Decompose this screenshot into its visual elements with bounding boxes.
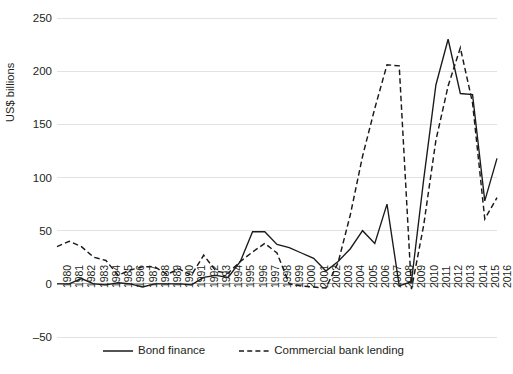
legend-item[interactable]: Commercial bank lending [239,345,404,357]
x-tick-label: 2016 [501,246,513,288]
y-tick-label: 100 [8,172,52,184]
legend-label: Bond finance [138,345,205,357]
y-tick-label: 150 [8,118,52,130]
plot-area [57,18,497,337]
legend-item[interactable]: Bond finance [103,345,205,357]
y-tick-label: 250 [8,12,52,24]
series-line-bond-finance [57,39,497,287]
plot-svg [57,18,497,337]
y-tick-label: 200 [8,65,52,77]
y-tick-label: 0 [8,278,52,290]
legend-label: Commercial bank lending [274,345,404,357]
y-tick-label: –50 [8,331,52,343]
series-line-commercial-bank-lending [57,48,497,289]
series-layer [57,39,497,289]
chart-legend: Bond financeCommercial bank lending [0,345,507,357]
legend-swatch-dashed [239,346,269,356]
legend-swatch-solid [103,346,133,356]
y-tick-label: 50 [8,225,52,237]
y-axis-tick-labels: 250200150100500–50 [0,0,52,374]
